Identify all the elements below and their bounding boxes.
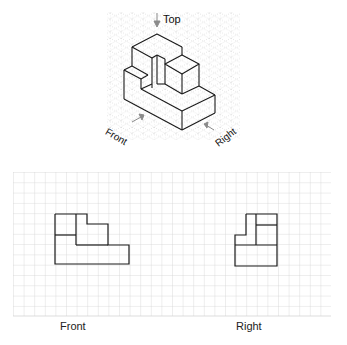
right-view-label: Right: [236, 320, 262, 332]
orthographic-grid: [0, 0, 347, 345]
front-view-label: Front: [60, 320, 86, 332]
